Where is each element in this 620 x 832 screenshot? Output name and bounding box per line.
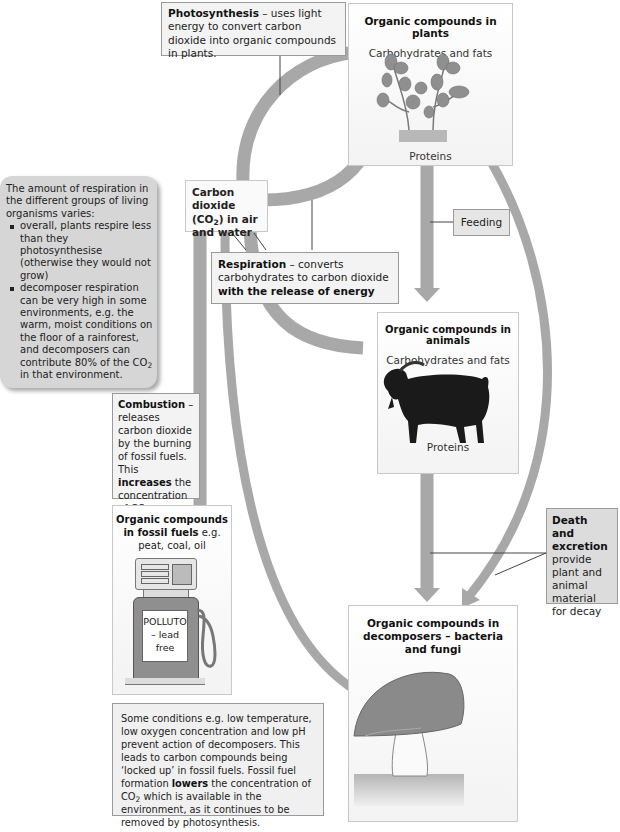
respiration-box: Respiration – converts carbohydrates to … <box>211 252 399 304</box>
mushroom-icon <box>349 656 519 816</box>
animals-panel: Organic compounds in animals Carbohydrat… <box>377 312 519 474</box>
decomposers-panel: Organic compounds in decomposers – bacte… <box>348 605 518 822</box>
death-connector-2 <box>495 553 546 575</box>
death-excretion-box: Death and excretion provide plant and an… <box>546 508 618 604</box>
plants-title: Organic compounds in plants <box>349 15 512 39</box>
photosynthesis-arrow <box>243 52 355 183</box>
combustion-box: Combustion – releases carbon dioxide by … <box>112 393 200 499</box>
photosynthesis-term: Photosynthesis <box>168 7 259 19</box>
co2-box: Carbon dioxide (CO2) in air and water <box>185 180 268 232</box>
animals-proteins-label: Proteins <box>378 441 518 453</box>
pump-display <box>135 558 197 590</box>
goat-icon <box>378 361 520 451</box>
decomposers-title: Organic compounds in decomposers – bacte… <box>361 617 505 656</box>
animal-death-arrowhead <box>414 588 440 602</box>
respiration-variation-note: The amount of respiration in the differe… <box>0 176 157 388</box>
note-bullet-decomposers: decomposer respiration can be very high … <box>20 282 153 381</box>
pump-hose-icon <box>195 606 219 676</box>
fossil-fuels-examples: peat, coal, oil <box>138 540 205 551</box>
feeding-label-box: Feeding <box>453 209 510 236</box>
plants-panel: Organic compounds in plants Carbohydrate… <box>348 3 513 166</box>
note-intro: The amount of respiration in the differe… <box>6 183 153 220</box>
feeding-arrowhead <box>414 288 440 302</box>
plant-icon <box>349 52 514 147</box>
plants-proteins-label: Proteins <box>349 150 512 162</box>
note-bullet-plants: overall, plants respire less than they p… <box>20 220 153 282</box>
fossil-fuels-panel: Organic compounds in fossil fuels e.g. p… <box>112 505 232 695</box>
animals-title: Organic compounds in animals <box>378 324 518 346</box>
fuel-pump-icon: POLLUTO – lead free <box>133 597 199 679</box>
fossil-formation-note: Some conditions e.g. low temperature, lo… <box>112 703 324 816</box>
pump-label: POLLUTO – lead free <box>142 610 188 662</box>
photosynthesis-box: Photosynthesis – uses light energy to co… <box>161 2 346 56</box>
